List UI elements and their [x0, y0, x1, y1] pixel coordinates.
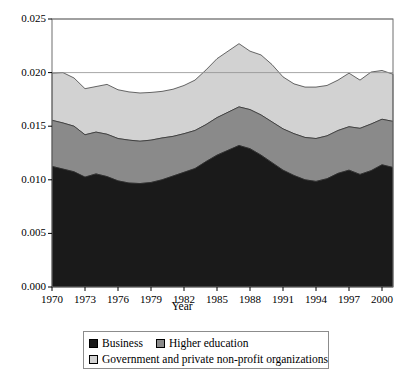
- legend-label-higher-education: Higher education: [169, 337, 249, 350]
- legend-entry-higher-education: Higher education: [156, 337, 249, 350]
- plot-area: [0, 0, 412, 312]
- y-tick-label-0.005: 0.005: [2, 227, 46, 238]
- chart-figure: 0.0000.0050.0100.0150.0200.025 197019731…: [0, 0, 412, 381]
- y-tick-label-0.010: 0.010: [2, 174, 46, 185]
- legend-row-2: Government and private non-profit organi…: [89, 351, 323, 367]
- government-swatch-icon: [89, 355, 98, 364]
- legend-label-government: Government and private non-profit organi…: [102, 353, 328, 366]
- chart-legend: Business Higher education Government and…: [83, 331, 329, 369]
- legend-label-business: Business: [102, 337, 143, 350]
- legend-entry-government: Government and private non-profit organi…: [89, 353, 328, 366]
- legend-row-1: Business Higher education: [89, 335, 323, 351]
- x-axis-title: Year: [152, 300, 212, 312]
- legend-entry-business: Business: [89, 337, 143, 350]
- y-tick-label-0.000: 0.000: [2, 281, 46, 292]
- higher-education-swatch-icon: [156, 339, 165, 348]
- y-tick-label-0.020: 0.020: [2, 67, 46, 78]
- business-swatch-icon: [89, 339, 98, 348]
- stacked-area-svg: [0, 0, 412, 312]
- y-tick-label-0.015: 0.015: [2, 120, 46, 131]
- x-tick-label-2000: 2000: [362, 294, 402, 305]
- y-tick-label-0.025: 0.025: [2, 13, 46, 24]
